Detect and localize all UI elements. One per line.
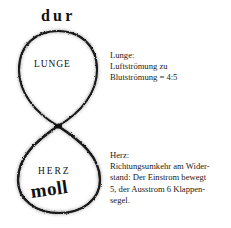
- annotation-lunge: Lunge: Luftströmung zu Blutströmung = 4:…: [110, 50, 230, 84]
- annotation-lunge-line-1: Luftströmung zu: [110, 61, 230, 72]
- annotation-herz-line-3: 5, der Ausstrom 6 Klappen-: [110, 184, 230, 195]
- annotation-herz: Herz: Richtungsumkehr am Wider- stand: D…: [110, 150, 230, 206]
- annotation-herz-line-2: stand: Der Einstrom bewegt: [110, 172, 230, 183]
- label-moll: moll: [29, 177, 69, 201]
- annotation-herz-title: Herz:: [110, 150, 230, 161]
- label-lunge: LUNGE: [34, 60, 71, 70]
- annotation-lunge-title: Lunge:: [110, 50, 230, 61]
- label-dur: dur: [41, 8, 76, 24]
- annotation-herz-line-4: segel.: [110, 195, 230, 206]
- annotation-lunge-line-2: Blutströmung = 4:5: [110, 72, 230, 83]
- upper-loop-lunge: [19, 31, 97, 126]
- diagram-page: dur LUNGE HERZ moll Lunge: Luftströmung …: [0, 0, 231, 228]
- annotation-herz-line-1: Richtungsumkehr am Wider-: [110, 161, 230, 172]
- loop-crossing-point: [55, 123, 62, 128]
